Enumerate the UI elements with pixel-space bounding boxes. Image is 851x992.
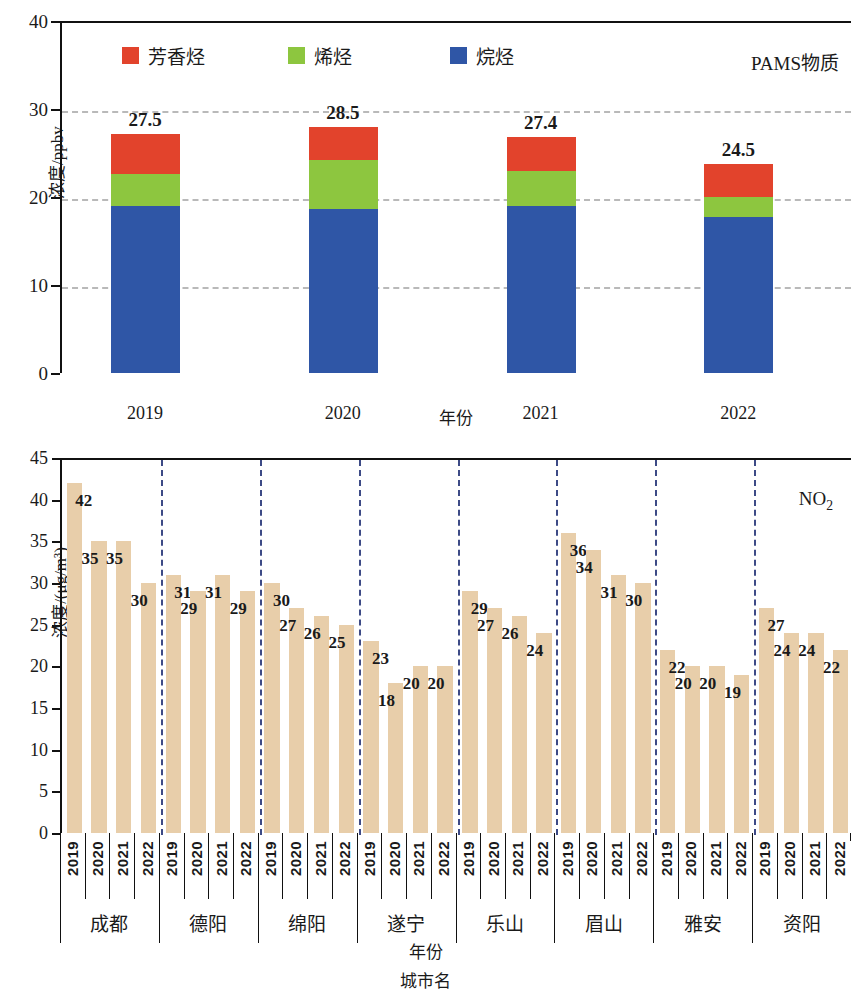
bottom-bar bbox=[635, 583, 650, 833]
bottom-bar bbox=[586, 550, 601, 833]
bottom-year-label: 2020 bbox=[89, 841, 106, 876]
top-y-tick-mark bbox=[51, 21, 60, 23]
bottom-year-cell-separator bbox=[530, 841, 531, 899]
bottom-x-tick-mark bbox=[332, 833, 333, 841]
bottom-city-label: 雅安 bbox=[684, 909, 722, 936]
top-stacked-bar bbox=[309, 127, 378, 373]
bottom-x-tick-mark bbox=[826, 833, 827, 841]
bottom-x-tick-mark bbox=[727, 833, 728, 841]
bottom-city-label: 眉山 bbox=[585, 909, 623, 936]
bottom-bar-value-label: 34 bbox=[576, 558, 593, 578]
no2-grouped-bar-chart: 051015202530354045 浓度/(μg/m³) 4235353031… bbox=[0, 430, 851, 972]
bottom-year-cell-separator bbox=[653, 841, 654, 899]
top-bar-segment bbox=[507, 137, 576, 170]
bottom-bar bbox=[808, 633, 823, 833]
bottom-year-cell-separator bbox=[85, 841, 86, 899]
bottom-year-cell-separator bbox=[456, 841, 457, 899]
bottom-city-separator bbox=[556, 460, 558, 835]
bottom-bar bbox=[363, 641, 378, 833]
bottom-city-cell-separator bbox=[456, 899, 457, 943]
bottom-x-tick-mark bbox=[505, 833, 506, 841]
bottom-x-tick-mark bbox=[604, 833, 605, 841]
bottom-bar bbox=[240, 591, 255, 833]
bottom-x-tick-mark bbox=[258, 833, 259, 841]
bottom-bar-value-label: 20 bbox=[403, 674, 420, 694]
bottom-city-cell-separator bbox=[653, 899, 654, 943]
bottom-bar bbox=[215, 575, 230, 833]
top-legend-item: 烯烃 bbox=[288, 42, 352, 69]
bottom-year-label: 2019 bbox=[460, 841, 477, 876]
bottom-city-cell-separator bbox=[159, 899, 160, 943]
top-legend-label: 烯烃 bbox=[314, 42, 352, 69]
bottom-x-tick-mark bbox=[653, 833, 654, 841]
bottom-city-separator bbox=[260, 460, 262, 835]
bottom-year-label: 2021 bbox=[410, 841, 427, 876]
bottom-bar bbox=[784, 633, 799, 833]
bottom-x-tick-mark bbox=[282, 833, 283, 841]
top-gridline bbox=[62, 111, 851, 113]
top-bar-segment bbox=[309, 127, 378, 160]
bottom-year-label: 2022 bbox=[435, 841, 452, 876]
bottom-year-label: 2022 bbox=[534, 841, 551, 876]
bottom-bar bbox=[190, 591, 205, 833]
bottom-bar bbox=[314, 616, 329, 833]
bottom-bar bbox=[611, 575, 626, 833]
bottom-year-label: 2020 bbox=[188, 841, 205, 876]
bottom-bar-value-label: 24 bbox=[798, 641, 815, 661]
top-bar-total-label: 28.5 bbox=[326, 102, 359, 124]
bottom-x-tick-mark bbox=[678, 833, 679, 841]
bottom-city-cell-separator bbox=[554, 899, 555, 943]
bottom-bar bbox=[536, 633, 551, 833]
bottom-year-label: 2019 bbox=[163, 841, 180, 876]
top-legend-item: 烷烃 bbox=[450, 42, 514, 69]
bottom-year-cell-separator bbox=[109, 841, 110, 899]
bottom-x-tick-mark bbox=[85, 833, 86, 841]
top-chart-plot-area: 27.5201928.5202027.4202124.52022 bbox=[60, 21, 851, 373]
bottom-year-label: 2022 bbox=[139, 841, 156, 876]
top-y-tick-mark bbox=[51, 285, 60, 287]
top-bar-total-label: 27.4 bbox=[524, 112, 557, 134]
bottom-y-tick-mark bbox=[52, 500, 60, 502]
bottom-x-tick-mark bbox=[406, 833, 407, 841]
bottom-x-tick-mark bbox=[480, 833, 481, 841]
bottom-year-label: 2022 bbox=[336, 841, 353, 876]
bottom-bar bbox=[462, 591, 477, 833]
bottom-city-cell-separator bbox=[752, 899, 753, 943]
bottom-y-tick-label: 5 bbox=[39, 782, 48, 800]
bottom-city-cell-separator bbox=[60, 899, 61, 943]
bottom-year-cell-separator bbox=[802, 841, 803, 899]
bottom-bar-value-label: 30 bbox=[273, 591, 290, 611]
bottom-bar bbox=[339, 625, 354, 833]
bottom-year-cell-separator bbox=[357, 841, 358, 899]
bottom-bar-value-label: 26 bbox=[304, 624, 321, 644]
bottom-year-cell-separator bbox=[258, 841, 259, 899]
bottom-bar-value-label: 19 bbox=[724, 683, 741, 703]
bottom-x-tick-mark bbox=[456, 833, 457, 841]
bottom-bar-value-label: 27 bbox=[767, 616, 784, 636]
bottom-y-tick-mark bbox=[52, 750, 60, 752]
top-stacked-bar bbox=[507, 137, 576, 373]
bottom-bar-value-label: 23 bbox=[372, 649, 389, 669]
top-y-tick-label: 0 bbox=[39, 364, 49, 383]
bottom-bar bbox=[561, 533, 576, 833]
bottom-y-tick-label: 10 bbox=[30, 741, 48, 759]
bottom-x-tick-mark bbox=[752, 833, 753, 841]
top-bar-segment bbox=[704, 197, 773, 217]
bottom-chart-year-labels: 2019202020212022201920202021202220192020… bbox=[60, 841, 851, 899]
bottom-chart-x-axis-label-city: 城市名 bbox=[0, 967, 851, 992]
bottom-year-cell-separator bbox=[332, 841, 333, 899]
bottom-x-tick-mark bbox=[777, 833, 778, 841]
bottom-x-tick-mark bbox=[159, 833, 160, 841]
top-bar-total-label: 27.5 bbox=[128, 109, 161, 131]
bottom-bar-value-label: 29 bbox=[180, 599, 197, 619]
top-bar-segment bbox=[704, 217, 773, 373]
bottom-year-cell-separator bbox=[233, 841, 234, 899]
bottom-bar bbox=[141, 583, 156, 833]
bottom-x-tick-mark bbox=[530, 833, 531, 841]
bottom-x-tick-mark bbox=[629, 833, 630, 841]
bottom-year-cell-separator bbox=[752, 841, 753, 899]
bottom-x-tick-mark bbox=[802, 833, 803, 841]
bottom-bar-value-label: 30 bbox=[131, 591, 148, 611]
bottom-city-separator bbox=[359, 460, 361, 835]
bottom-bar-value-label: 27 bbox=[279, 616, 296, 636]
